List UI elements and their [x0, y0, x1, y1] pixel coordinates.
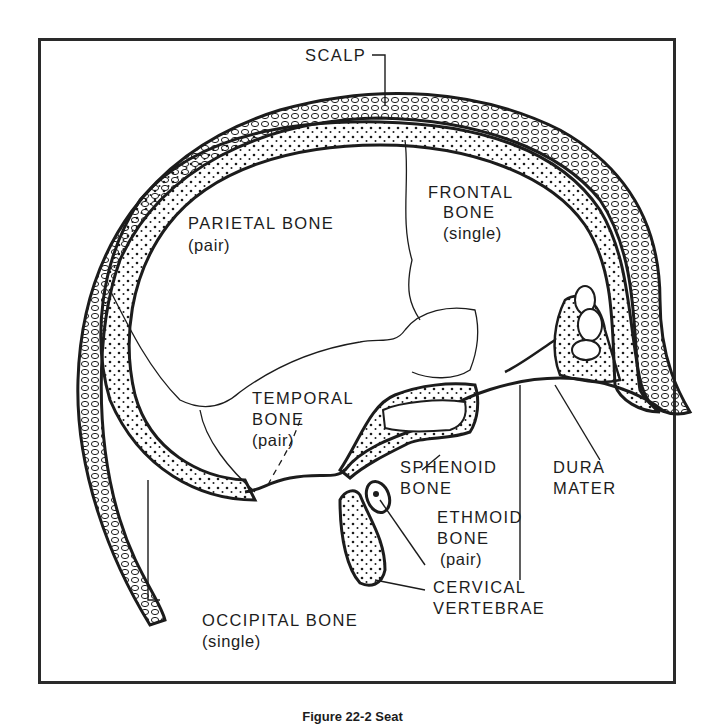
label-sphenoid-bone-line1: SPHENOID [400, 458, 497, 477]
label-temporal-bone-line2: BONE [252, 410, 304, 429]
label-cervical-vertebrae-line2: VERTEBRAE [433, 599, 545, 618]
label-occipital-bone: OCCIPITAL BONE [202, 611, 358, 630]
label-parietal-bone: PARIETAL BONE [188, 214, 334, 233]
label-occipital-bone-note: (single) [202, 632, 261, 651]
label-scalp: SCALP [305, 46, 366, 65]
label-frontal-bone-line2: BONE [443, 203, 495, 222]
label-ethmoid-bone-note: (pair) [440, 550, 482, 569]
label-sphenoid-bone-line2: BONE [400, 479, 452, 498]
label-frontal-bone-line1: FRONTAL [428, 183, 514, 202]
label-parietal-bone-note: (pair) [188, 236, 230, 255]
label-dura-mater-line2: MATER [553, 479, 617, 498]
frontal-sinus [505, 286, 620, 382]
figure-caption: Figure 22-2 Seat [0, 709, 705, 724]
label-frontal-bone-note: (single) [443, 224, 502, 243]
label-ethmoid-bone-line2: BONE [437, 529, 489, 548]
label-temporal-bone-note: (pair) [252, 431, 294, 450]
label-cervical-vertebrae-line1: CERVICAL [433, 578, 526, 597]
label-temporal-bone-line1: TEMPORAL [252, 389, 354, 408]
label-ethmoid-bone-line1: ETHMOID [437, 508, 523, 527]
cervical-vertebrae-shape [340, 478, 394, 585]
label-dura-mater-line1: DURA [553, 458, 605, 477]
